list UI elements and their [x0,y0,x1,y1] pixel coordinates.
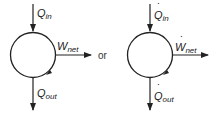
cycle-right: ˙ Qin ˙ Wnet ˙ Qout [128,1,209,110]
label-qdot-out: Qout [154,90,174,104]
label-qdot-in: Qin [154,9,169,23]
cycle-circle-icon [11,33,56,78]
label-q-out: Qout [37,87,57,101]
label-wdot-net: Wnet [175,41,197,55]
label-w-net: Wnet [57,40,79,54]
cycle-circle-icon [128,33,173,78]
heat-engine-diagram: Qin Wnet Qout or ˙ Qin ˙ Wnet ˙ Qout [0,0,219,117]
cycle-left: Qin Wnet Qout [11,4,92,110]
label-q-in: Qin [37,7,52,21]
separator-or: or [98,50,108,61]
